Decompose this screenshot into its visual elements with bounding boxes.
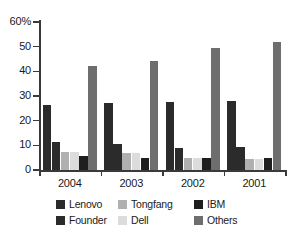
bar — [43, 105, 52, 170]
x-axis-label-2002: 2002 — [162, 177, 224, 189]
legend-label: Lenovo — [69, 198, 102, 210]
legend-item-lenovo[interactable]: Lenovo — [56, 198, 118, 210]
y-axis-tick — [33, 21, 39, 23]
y-axis-tick-label: 40 — [19, 65, 31, 75]
bar — [175, 148, 184, 170]
plot-area — [39, 22, 285, 170]
legend-label: IBM — [207, 198, 225, 210]
bar — [141, 158, 150, 170]
bar-group — [162, 22, 224, 170]
y-axis-labels: 60%50403020100 — [0, 0, 31, 180]
legend-item-dell[interactable]: Dell — [118, 214, 194, 226]
bar — [166, 102, 175, 170]
bar-group — [224, 22, 286, 170]
bar — [52, 142, 61, 170]
x-axis-label-2004: 2004 — [39, 177, 101, 189]
x-axis-tick — [39, 170, 41, 176]
y-axis-tick — [33, 169, 39, 171]
y-axis-tick-label: 60% — [10, 16, 31, 26]
bar — [113, 144, 122, 170]
bar — [104, 103, 113, 170]
y-axis-tick — [33, 46, 39, 48]
bar — [236, 147, 245, 170]
legend-label: Dell — [131, 214, 148, 226]
bar — [79, 156, 88, 170]
bar — [193, 158, 202, 170]
bar — [150, 61, 159, 170]
bar — [70, 152, 79, 171]
y-axis-tick-label: 30 — [19, 90, 31, 100]
legend-label: Founder — [69, 214, 107, 226]
legend-label: Others — [207, 214, 237, 226]
bar — [132, 153, 141, 170]
y-axis-tick-label: 10 — [19, 139, 31, 149]
legend-swatch-icon — [194, 200, 203, 209]
bar — [184, 158, 193, 170]
legend-item-ibm[interactable]: IBM — [194, 198, 256, 210]
bar — [255, 159, 264, 170]
y-axis-tick — [33, 71, 39, 73]
x-axis-tick — [285, 170, 287, 176]
legend-swatch-icon — [56, 216, 65, 225]
bar — [202, 158, 211, 170]
legend-swatch-icon — [194, 216, 203, 225]
y-axis-tick — [33, 145, 39, 147]
x-axis-tick — [224, 170, 226, 176]
chart-legend: LenovoTongfangIBMFounderDellOthers — [56, 196, 261, 228]
bar — [273, 42, 282, 170]
y-axis-tick-label: 0 — [25, 164, 31, 174]
y-axis-tick-label: 50 — [19, 41, 31, 51]
bar — [264, 158, 273, 170]
x-axis-tick — [101, 170, 103, 176]
bar-chart: 60%50403020100 2004200320022001 LenovoTo… — [0, 0, 292, 233]
bar — [211, 48, 220, 170]
bar — [245, 159, 254, 170]
y-axis-tick — [33, 95, 39, 97]
x-axis-label-2003: 2003 — [101, 177, 163, 189]
bar-group — [39, 22, 101, 170]
legend-item-others[interactable]: Others — [194, 214, 256, 226]
bar — [88, 66, 97, 170]
legend-item-founder[interactable]: Founder — [56, 214, 118, 226]
legend-label: Tongfang — [131, 198, 173, 210]
bar — [227, 101, 236, 170]
legend-swatch-icon — [56, 200, 65, 209]
x-axis-tick — [162, 170, 164, 176]
x-axis-label-2001: 2001 — [224, 177, 286, 189]
bar-group — [101, 22, 163, 170]
y-axis-tick — [33, 120, 39, 122]
y-axis-tick-label: 20 — [19, 115, 31, 125]
legend-swatch-icon — [118, 216, 127, 225]
bar — [122, 153, 131, 170]
bar — [61, 152, 70, 171]
legend-swatch-icon — [118, 200, 127, 209]
legend-item-tongfang[interactable]: Tongfang — [118, 198, 194, 210]
